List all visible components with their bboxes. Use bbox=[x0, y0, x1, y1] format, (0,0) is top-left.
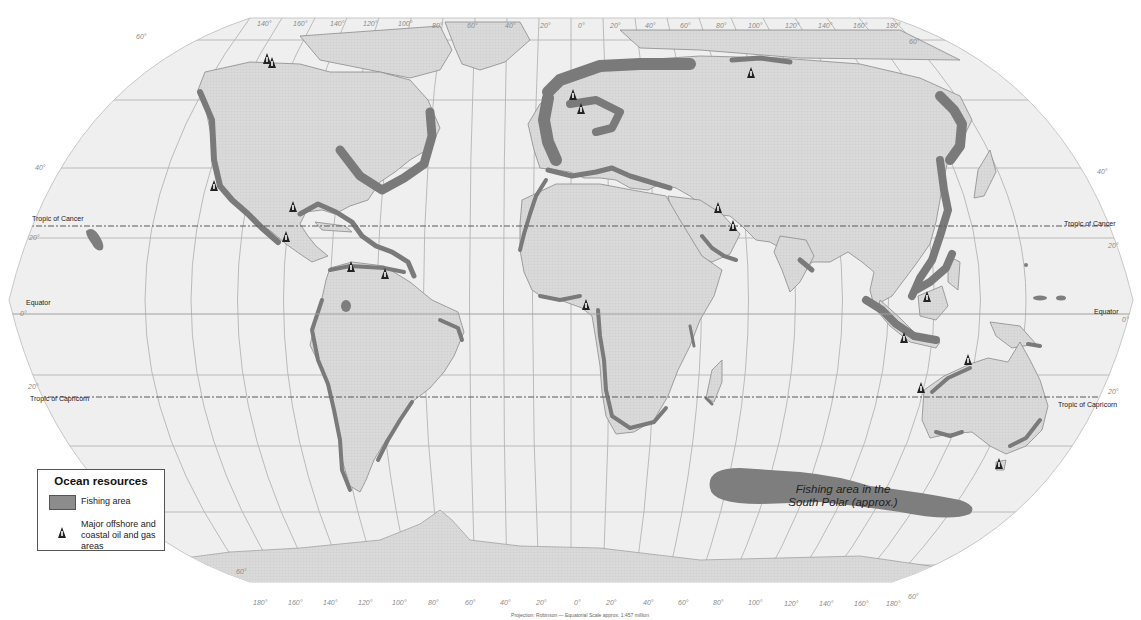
oil-rig-icon bbox=[569, 89, 577, 100]
oil-rig-icon bbox=[964, 354, 972, 365]
oil-rig-icon bbox=[282, 231, 290, 242]
fishing-area-swatch bbox=[49, 495, 76, 510]
legend-oil-gas-label: Major offshore and coastal oil and gas a… bbox=[81, 519, 163, 552]
tropic-of-capricorn-label-right: Tropic of Capricorn bbox=[1058, 401, 1117, 408]
lat-label: 0° bbox=[20, 310, 27, 317]
oil-rig-icon bbox=[381, 268, 389, 279]
oil-rig-icon bbox=[900, 332, 908, 343]
lat-label: 60° bbox=[908, 593, 919, 600]
lat-label: 40° bbox=[1097, 168, 1108, 175]
oil-rig-icon bbox=[268, 57, 276, 68]
projection-caption: Projection: Robinson — Equatorial Scale … bbox=[430, 612, 730, 618]
oil-rig-icon bbox=[747, 67, 755, 78]
new-zealand bbox=[1064, 446, 1104, 484]
equator-label-right: Equator bbox=[1094, 308, 1119, 315]
oil-rig-icon bbox=[995, 458, 1003, 469]
oil-rig-icon bbox=[714, 202, 722, 213]
tropic-of-cancer-label-right: Tropic of Cancer bbox=[1064, 220, 1115, 227]
lat-label: 0° bbox=[1122, 316, 1129, 323]
lat-label: 60° bbox=[909, 38, 920, 45]
equator-label-left: Equator bbox=[26, 299, 51, 306]
oil-rig-icon bbox=[210, 180, 218, 191]
lat-label: 60° bbox=[236, 568, 247, 575]
oil-rig-icon bbox=[917, 382, 925, 393]
lat-label: 20° bbox=[29, 234, 40, 241]
lat-label: 20° bbox=[28, 383, 39, 390]
tropic-of-capricorn-label-left: Tropic of Capricorn bbox=[30, 395, 89, 402]
legend-fishing-label: Fishing area bbox=[81, 496, 131, 506]
oil-rig-icon bbox=[923, 291, 931, 302]
lat-label: 20° bbox=[1108, 242, 1119, 249]
legend: Ocean resources Fishing area Major offsh… bbox=[37, 469, 165, 551]
oil-rig-icon bbox=[289, 201, 297, 212]
legend-title: Ocean resources bbox=[38, 475, 164, 487]
oil-rig-icon bbox=[577, 103, 585, 114]
lat-label: 40° bbox=[35, 164, 46, 171]
lat-label: 60° bbox=[136, 33, 147, 40]
oil-rig-icon bbox=[58, 527, 66, 538]
oil-rig-icon bbox=[729, 220, 737, 231]
oil-rig-icon bbox=[582, 299, 590, 310]
oil-rig-icon bbox=[347, 261, 355, 272]
tropic-of-cancer-label-left: Tropic of Cancer bbox=[32, 215, 83, 222]
lat-label: 20° bbox=[1108, 388, 1119, 395]
south-polar-fishing-label: Fishing area in the South Polar (approx.… bbox=[763, 483, 923, 509]
